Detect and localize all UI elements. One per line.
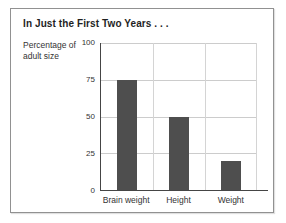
vertical-gridline [153, 43, 154, 190]
category-label: Height [152, 195, 204, 205]
bar-brain-weight [117, 80, 137, 190]
chart-card: In Just the First Two Years . . . Percen… [10, 8, 274, 213]
bar-weight [221, 161, 241, 190]
x-axis-labels: Brain weightHeightWeight [100, 195, 257, 205]
chart-title: In Just the First Two Years . . . [23, 18, 169, 29]
bar-height [169, 117, 189, 191]
right-edge-gridline [256, 43, 257, 190]
category-label: Brain weight [100, 195, 152, 205]
y-tick-label: 0 [91, 187, 95, 195]
category-label: Weight [205, 195, 257, 205]
plot-area [100, 43, 257, 191]
y-tick-label: 100 [82, 39, 95, 47]
y-tick-label: 75 [86, 76, 95, 84]
vertical-gridline [205, 43, 206, 190]
y-axis-ticks: 0255075100 [11, 43, 95, 191]
x-axis-extension [257, 190, 268, 191]
horizontal-gridline [101, 43, 257, 44]
y-tick-label: 25 [86, 150, 95, 158]
figure-background: In Just the First Two Years . . . Percen… [0, 0, 286, 223]
y-tick-label: 50 [86, 113, 95, 121]
